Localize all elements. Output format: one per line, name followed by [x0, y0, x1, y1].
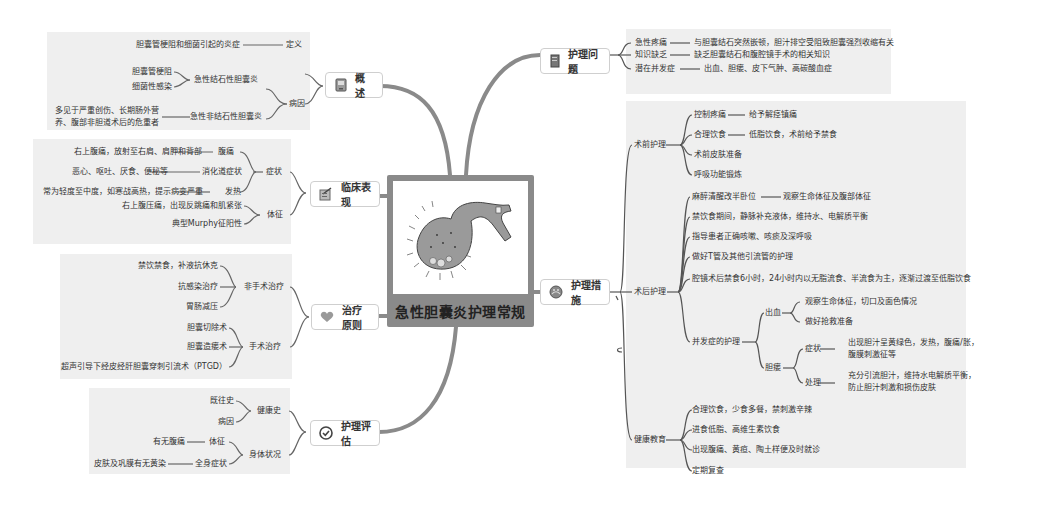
cause-label: 病因 [289, 99, 305, 109]
physical-label: 身体状况 [249, 450, 281, 460]
fistula-label: 胆瘘 [765, 363, 781, 373]
preop-item-desc: 低脂饮食，术前给予禁食 [749, 130, 837, 140]
branch-treatment[interactable]: 治疗原则 [311, 304, 379, 330]
problem-label: 急性疼痛 [635, 38, 667, 48]
fistula-symptom-label: 症状 [805, 344, 821, 354]
postop-item-label: 腔镜术后禁食6小时，24小时内以无脂流食、半流食为主，逐渐过渡至低脂饮食 [692, 274, 971, 284]
physical-desc: 有无腹痛 [120, 437, 185, 447]
bleeding-label: 出血 [765, 308, 781, 318]
nonsurgical-label: 非手术治疗 [244, 282, 284, 292]
symptoms-label: 症状 [266, 167, 282, 177]
preop-item-label: 合理饮食 [694, 130, 726, 140]
education-item: 定期复查 [692, 466, 724, 476]
postop-item-label: 麻醉清醒改半卧位 [692, 192, 756, 202]
branch-assessment-label: 护理评估 [341, 418, 371, 448]
surgical-item: 胆囊造瘘术 [100, 342, 227, 352]
signs-label: 体征 [267, 210, 283, 220]
branch-problems-label: 护理问题 [568, 46, 601, 76]
branch-measures[interactable]: 护理措施 [540, 279, 610, 305]
calculous-item: 胆囊管梗阻 [110, 67, 172, 77]
central-title: 急性胆囊炎护理常规 [393, 294, 528, 327]
physical-desc: 皮肤及巩膜有无黄染 [90, 459, 166, 469]
clipboard-icon [319, 187, 333, 201]
physical-label-item: 体征 [209, 437, 225, 447]
education-item: 合理饮食，少食多餐，禁刺激辛辣 [692, 405, 812, 415]
document-icon [334, 78, 347, 92]
nonsurgical-item: 禁饮禁食，补液抗休克 [90, 261, 218, 271]
heart-icon [320, 310, 334, 324]
branch-measures-label: 护理措施 [571, 277, 601, 307]
branch-overview[interactable]: 概述 [325, 72, 383, 98]
symptom-desc: 右上腹痛，放射至右肩、肩胛和背部 [40, 147, 202, 157]
treatment-panel [60, 254, 292, 379]
history-label: 健康史 [257, 406, 281, 416]
postop-item-label: 禁饮食期间，静脉补充液体，维持水、电解质平衡 [692, 212, 868, 222]
education-item: 进食低脂、高维生素饮食 [692, 425, 780, 435]
branch-assessment[interactable]: 护理评估 [310, 420, 380, 446]
postop-item-label: 做好T管及其他引流管的护理 [692, 252, 793, 262]
surgical-item: 超声引导下经皮经肝胆囊穿刺引流术（PTGD） [60, 362, 227, 372]
problem-label: 潜在并发症 [635, 64, 675, 74]
nonsurgical-item: 胃肠减压 [90, 302, 218, 312]
preop-item-label: 呼吸功能锻炼 [694, 170, 742, 180]
fistula-treat-label: 处理 [805, 378, 821, 388]
postop-item-label: 指导患者正确咳嗽、咳痰及深呼吸 [692, 232, 812, 242]
postop-item-desc: 观察生命体征及腹部体征 [783, 192, 871, 202]
bleeding-item: 做好抢救准备 [805, 317, 853, 327]
problem-desc: 出血、胆瘘、皮下气肿、高碳酸血症 [704, 64, 832, 74]
history-item: 病因 [190, 417, 234, 427]
education-item: 出现腹痛、黄疸、陶土样便及时就诊 [692, 445, 820, 455]
symptom-label: 消化道症状 [202, 167, 242, 177]
branch-overview-label: 概述 [355, 70, 374, 100]
problem-label: 知识缺乏 [635, 50, 667, 60]
check-circle-icon [319, 426, 333, 440]
history-item: 既往史 [190, 396, 234, 406]
surgical-item: 胆囊切除术 [100, 323, 227, 333]
notebook-icon [549, 54, 560, 68]
central-topic[interactable]: 急性胆囊炎护理常规 [387, 175, 534, 327]
problem-desc: 与胆囊结石突然嵌顿，胆汁排空受阻致胆囊强烈收缩有关 [694, 38, 894, 48]
acalculous-label: 急性非结石性胆囊炎 [190, 112, 262, 122]
definition-label: 定义 [286, 40, 302, 50]
symptom-label: 腹痛 [218, 147, 234, 157]
branch-clinical-label: 临床表现 [341, 179, 371, 209]
preop-item-label: 术前皮肤准备 [694, 150, 742, 160]
sign-item: 典型Murphy征阳性 [100, 219, 242, 229]
gallbladder-illustration [393, 181, 528, 294]
nonsurgical-item: 抗感染治疗 [90, 282, 218, 292]
symptom-desc: 常为轻度至中度，如寒战高热，提示病变严重 [40, 187, 203, 197]
globe-icon [549, 285, 563, 299]
preop-label: 术前护理 [634, 140, 666, 150]
definition-text: 胆囊管梗阻和细菌引起的炎症 [115, 40, 240, 50]
branch-treatment-label: 治疗原则 [342, 302, 370, 332]
preop-item-desc: 给予解痉镇痛 [749, 110, 797, 120]
calculous-item: 细菌性感染 [110, 82, 172, 92]
fistula-symptom-text: 出现胆汁呈黄绿色，发热，腹痛/胀，腹膜刺激征等 [848, 337, 983, 361]
surgical-label: 手术治疗 [249, 342, 281, 352]
fistula-treat-text: 充分引流胆汁，维持水电解质平衡，防止胆汁刺激和损伤皮肤 [848, 370, 978, 394]
symptom-desc: 恶心、呕吐、厌食、便秘等 [40, 167, 168, 177]
bleeding-item: 观察生命体征，切口及面色情况 [805, 297, 917, 307]
problem-desc: 缺乏胆囊结石和腹腔镜手术的相关知识 [694, 50, 830, 60]
acalculous-text: 多见于严重创伤、长期肠外营养、腹部非胆道术后的危重者 [55, 105, 161, 129]
complication-label: 并发症的护理 [692, 337, 740, 347]
education-label: 健康教育 [634, 435, 666, 445]
sign-item: 右上腹压痛，出现反跳痛和肌紧张 [100, 201, 242, 211]
calculous-label: 急性结石性胆囊炎 [194, 75, 258, 85]
preop-item-label: 控制疼痛 [694, 110, 726, 120]
branch-problems[interactable]: 护理问题 [540, 48, 610, 74]
physical-label-item: 全身症状 [195, 459, 227, 469]
branch-clinical[interactable]: 临床表现 [310, 181, 380, 207]
symptom-label: 发热 [225, 187, 241, 197]
postop-label: 术后护理 [634, 287, 666, 297]
